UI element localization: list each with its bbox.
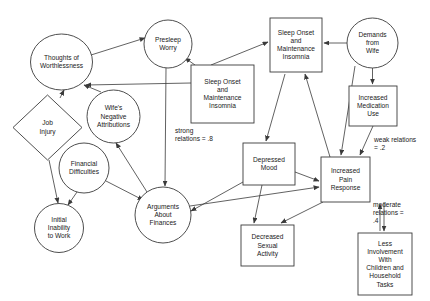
annotations-layer: strongrelations = .8weak relations= .2mo… bbox=[175, 127, 417, 224]
edge-line bbox=[60, 90, 64, 98]
edge-thoughts_worthlessness-to-presleep_worry bbox=[91, 38, 145, 55]
edge-job_injury-to-initial_inability_to_work bbox=[49, 160, 58, 203]
edge-increased_pain_response-to-sleep_onset_insomnia_top bbox=[305, 74, 330, 157]
edge-line bbox=[84, 85, 101, 92]
edge-depressed_mood-to-arguments_about_finances bbox=[191, 182, 243, 211]
edge-line bbox=[281, 202, 323, 223]
edge-line bbox=[165, 68, 166, 186]
edge-line bbox=[49, 160, 58, 203]
edge-line bbox=[190, 187, 319, 206]
node-decreased_sexual_activity[interactable]: DecreasedSexualActivity bbox=[241, 225, 294, 266]
node-presleep_worry[interactable]: PresleepWorry bbox=[144, 20, 192, 68]
edge-increased_medication_use-to-increased_pain_response bbox=[360, 126, 373, 155]
edge-arguments_about_finances-to-increased_pain_response bbox=[190, 187, 319, 206]
node-label: FinancialDifficulties bbox=[69, 160, 100, 175]
node-sleep_onset_insomnia_left[interactable]: Sleep OnsetandMaintenanceInsomnia bbox=[191, 65, 254, 123]
edge-line bbox=[86, 83, 191, 85]
node-sleep_onset_insomnia_top[interactable]: Sleep OnsetandMaintenanceInsomnia bbox=[270, 18, 322, 72]
edge-arguments_about_finances-to-wifes_negative_attributions bbox=[116, 143, 147, 192]
edge-line bbox=[360, 126, 373, 155]
edge-increased_pain_response-to-decreased_sexual_activity bbox=[281, 202, 323, 223]
node-wifes_negative_attributions[interactable]: Wife'sNegativeAttributions bbox=[87, 90, 140, 143]
causal-loop-diagram: Thoughts ofWorthlessnessPresleepWorrySle… bbox=[0, 0, 430, 301]
edge-sleep_onset_insomnia_left-to-thoughts_worthlessness bbox=[86, 83, 191, 85]
edge-financial_difficulties-to-arguments_about_finances bbox=[106, 181, 143, 200]
node-thoughts_worthlessness[interactable]: Thoughts ofWorthlessness bbox=[31, 34, 93, 90]
node-initial_inability_to_work[interactable]: InitialInabilityto Work bbox=[35, 204, 84, 253]
node-less_involvement[interactable]: LessInvolvementWithChildren andHousehold… bbox=[358, 233, 412, 295]
edge-line bbox=[91, 38, 145, 55]
edge-depressed_mood-to-increased_pain_response bbox=[295, 172, 319, 181]
node-demands_from_wife[interactable]: DemandsfromWife bbox=[347, 18, 398, 68]
edge-line bbox=[305, 74, 330, 157]
nodes-layer: Thoughts ofWorthlessnessPresleepWorrySle… bbox=[13, 18, 412, 295]
edge-line bbox=[254, 185, 262, 223]
annotation-weak_relations: weak relations= .2 bbox=[373, 136, 417, 151]
edge-depressed_mood-to-decreased_sexual_activity bbox=[254, 185, 262, 223]
edge-sleep_onset_insomnia_left-to-sleep_onset_insomnia_top bbox=[211, 42, 268, 65]
edge-line bbox=[295, 172, 319, 181]
edge-presleep_worry-to-arguments_about_finances bbox=[165, 68, 166, 186]
edge-line bbox=[211, 42, 268, 65]
diagram-canvas: Thoughts ofWorthlessnessPresleepWorrySle… bbox=[0, 0, 430, 301]
node-arguments_about_finances[interactable]: ArgumentsAboutFinances bbox=[135, 187, 191, 243]
edge-line bbox=[266, 74, 285, 141]
node-label: Thoughts ofWorthlessness bbox=[40, 54, 84, 69]
edge-line bbox=[106, 181, 143, 200]
edge-wifes_negative_attributions-to-thoughts_worthlessness bbox=[84, 85, 101, 92]
edge-line bbox=[68, 192, 77, 205]
annotation-strong_relations: strongrelations = .8 bbox=[175, 127, 213, 142]
edge-financial_difficulties-to-initial_inability_to_work bbox=[68, 192, 77, 205]
node-financial_difficulties[interactable]: FinancialDifficulties bbox=[59, 143, 109, 193]
node-depressed_mood[interactable]: DepressedMood bbox=[243, 143, 295, 185]
edge-line bbox=[116, 143, 147, 192]
edge-line bbox=[191, 182, 243, 211]
node-increased_pain_response[interactable]: IncreasedPainResponse bbox=[321, 157, 370, 202]
node-increased_medication_use[interactable]: IncreasedMedicationUse bbox=[349, 86, 397, 126]
edge-sleep_onset_insomnia_top-to-depressed_mood bbox=[266, 74, 285, 141]
edge-job_injury-to-thoughts_worthlessness bbox=[60, 90, 64, 98]
annotation-moderate_relations: moderaterelations =.4 bbox=[373, 201, 404, 224]
